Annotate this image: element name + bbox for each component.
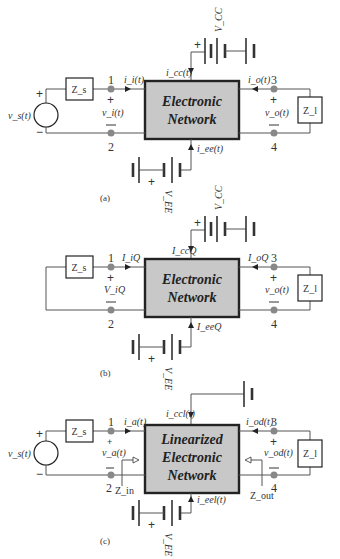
circuit-diagrams: + V_CC i_cc(t) Electronic Network Z_s + … (0, 0, 340, 559)
node-1-label: 1 (108, 73, 114, 87)
ioq-arrow-icon (252, 264, 258, 270)
zs-label: Z_s (72, 262, 87, 273)
source-label: v_s(t) (8, 448, 31, 460)
viq-plus: + (107, 271, 114, 285)
ieel-arrow-icon (188, 496, 194, 502)
caption-b: (b) (100, 368, 111, 378)
io-arrow-icon (252, 86, 258, 92)
vcc-plus-sign: + (194, 216, 201, 230)
zin-label: Z_in (115, 485, 134, 496)
zl-label: Z_l (303, 283, 317, 294)
node-2 (108, 130, 115, 137)
electronic-network-box (145, 81, 239, 139)
box-line-1: Electronic (161, 94, 223, 109)
iccl-label: i_ccl(t) (166, 408, 196, 420)
figure-b: + V_CC I_ccQ Electronic Network Z_s 1 2 … (46, 185, 322, 390)
vee-plus-sign: + (148, 175, 155, 189)
ieel-label: i_eel(t) (197, 494, 227, 506)
vo-plus: + (270, 271, 277, 285)
ioq-label: I_oQ (247, 252, 269, 263)
source-label: v_s(t) (8, 110, 31, 122)
node-3-label: 3 (271, 251, 277, 265)
iod-label: i_od(t) (246, 416, 274, 428)
node-2 (108, 307, 115, 314)
source-minus: − (36, 125, 43, 139)
vcc-battery: + V_CC i_cc(t) (166, 7, 254, 80)
vcc-label: V_CC (213, 7, 224, 32)
node-1-label: 1 (108, 415, 114, 429)
node-3-label: 3 (271, 73, 277, 87)
vee-plus-sign: + (148, 352, 155, 366)
iiq-label: I_iQ (121, 252, 141, 263)
node-4 (271, 307, 278, 314)
iccq-label: I_ccQ (171, 245, 197, 256)
vcc-plus-sign: + (194, 38, 201, 52)
ieeq-arrow-icon (188, 322, 194, 328)
box-line-2: Network (167, 112, 217, 127)
figure-c: i_ccl(t) Linearized Electronic Network Z… (8, 381, 322, 556)
iee-arrow-icon (188, 144, 194, 150)
node-2-label: 2 (108, 317, 114, 331)
vee-label: V_EE (163, 367, 174, 390)
icc-label: i_cc(t) (166, 67, 193, 79)
box-line-1: Linearized (160, 432, 223, 447)
vee-battery: + V_EE i_ee(t) (133, 139, 224, 213)
vi-plus: + (107, 93, 114, 107)
zin-arrow-icon (133, 457, 139, 463)
ia-label: i_a(t) (124, 416, 147, 428)
vcc-battery: + V_CC I_ccQ (171, 185, 254, 258)
va-label: v_a(t) (102, 447, 127, 459)
viq-label: V_iQ (104, 284, 126, 295)
figure-a: + V_CC i_cc(t) Electronic Network Z_s + … (8, 7, 322, 213)
zout-arrow-icon (245, 457, 251, 463)
io-label: i_o(t) (248, 74, 271, 86)
vod-label: v_od(t) (264, 447, 294, 459)
vee-battery: + V_EE I_eeQ (133, 317, 222, 390)
voltage-source-icon (34, 103, 58, 127)
caption-a: (a) (100, 193, 110, 203)
node-2-label: 2 (108, 140, 114, 154)
source-minus: − (36, 467, 43, 481)
vo-plus: + (270, 93, 277, 107)
node-2 (108, 472, 115, 479)
node-4-label: 4 (271, 140, 277, 154)
vcc-label: V_CC (213, 185, 224, 210)
source-plus: + (36, 427, 43, 441)
zs-label: Z_s (72, 426, 87, 437)
va-plus: + (107, 437, 112, 447)
box-line-2: Network (167, 290, 217, 305)
node-4 (271, 130, 278, 137)
vee-battery: + V_EE i_eel(t) (133, 493, 227, 556)
ii-label: i_i(t) (124, 74, 145, 86)
iee-label: i_ee(t) (197, 143, 224, 155)
box-line-3: Network (167, 468, 217, 483)
node-4-label: 4 (271, 317, 277, 331)
iod-arrow-icon (252, 428, 258, 434)
zs-label: Z_s (72, 84, 87, 95)
ii-arrow-icon (125, 86, 131, 92)
zout-label: Z_out (250, 490, 274, 501)
vi-label: v_i(t) (102, 107, 124, 119)
vee-label: V_EE (163, 533, 174, 556)
node-4 (271, 472, 278, 479)
caption-c: (c) (100, 536, 110, 546)
ground-battery-top: i_ccl(t) (166, 381, 252, 424)
voltage-source-icon (34, 441, 58, 465)
ia-arrow-icon (125, 428, 131, 434)
node-2-label: 2 (106, 481, 112, 495)
zl-label: Z_l (303, 448, 317, 459)
vee-plus-sign: + (148, 518, 155, 532)
electronic-network-box (145, 259, 239, 317)
vo-label: v_o(t) (265, 284, 290, 296)
source-plus: + (36, 87, 43, 101)
zl-label: Z_l (303, 105, 317, 116)
box-line-2: Electronic (161, 450, 223, 465)
ieeq-label: I_eeQ (196, 321, 222, 332)
vee-label: V_EE (163, 190, 174, 213)
node-1-label: 1 (108, 251, 114, 265)
vo-label: v_o(t) (265, 107, 290, 119)
iiq-arrow-icon (125, 264, 131, 270)
box-line-1: Electronic (161, 272, 223, 287)
